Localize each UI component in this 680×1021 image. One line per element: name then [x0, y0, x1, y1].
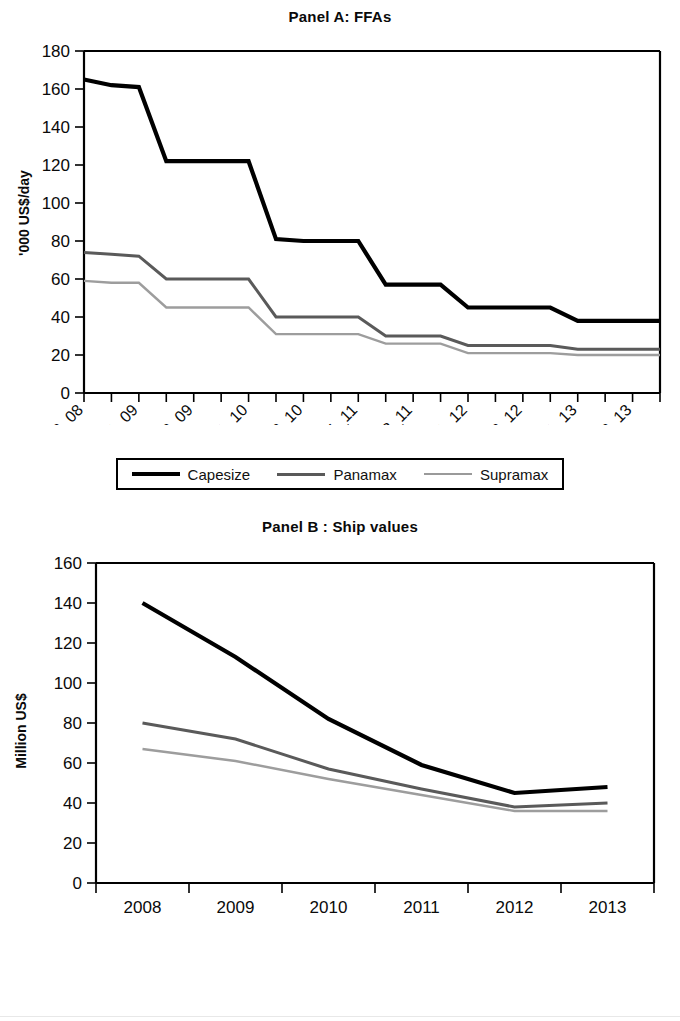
x-tick-label: Q3_13	[589, 401, 636, 425]
legend-item-capesize[interactable]: Capesize	[132, 466, 251, 483]
x-tick-label: 2010	[310, 898, 348, 917]
x-tick-label: 2009	[217, 898, 255, 917]
y-tick-label: 20	[51, 346, 70, 365]
y-tick-label: 100	[42, 194, 70, 213]
legend-item-panamax[interactable]: Panamax	[277, 466, 396, 483]
series-line-panamax	[143, 723, 608, 807]
y-tick-label: 160	[54, 554, 82, 573]
x-tick-label: Q3_08	[40, 401, 87, 425]
panel-b-title: Panel B : Ship values	[0, 508, 680, 535]
panel-a-y-axis-label: '000 US$/day	[16, 143, 32, 283]
legend-item-supramax[interactable]: Supramax	[424, 466, 548, 483]
panel-b: Panel B : Ship values Million US$ 020406…	[0, 508, 680, 1021]
y-tick-label: 160	[42, 80, 70, 99]
x-tick-label: Q3_12	[479, 401, 526, 425]
y-tick-label: 40	[51, 308, 70, 327]
legend-label-supramax: Supramax	[480, 466, 548, 483]
y-tick-label: 0	[73, 874, 82, 893]
panamax-line-icon	[277, 473, 325, 476]
x-tick-label: 2012	[496, 898, 534, 917]
panel-b-chart: 0204060801001201401602008200920102011201…	[0, 535, 680, 935]
x-tick-label: Q1_09	[95, 401, 142, 425]
x-tick-label: Q3_10	[260, 401, 307, 425]
y-tick-label: 140	[42, 118, 70, 137]
legend-label-panamax: Panamax	[333, 466, 396, 483]
panel-b-y-axis-label: Million US$	[13, 666, 29, 796]
y-tick-label: 20	[63, 834, 82, 853]
panel-a-chart: 020406080100120140160180Q3_08Q1_09Q3_09Q…	[0, 25, 680, 425]
panel-a: Panel A: FFAs '000 US$/day 0204060801001…	[0, 0, 680, 505]
supramax-line-icon	[424, 473, 472, 475]
y-tick-label: 180	[42, 42, 70, 61]
panel-a-legend: Capesize Panamax Supramax	[116, 458, 564, 490]
y-tick-label: 40	[63, 794, 82, 813]
panel-a-title: Panel A: FFAs	[0, 0, 680, 25]
x-tick-label: Q1_13	[534, 401, 581, 425]
x-tick-label: Q3_11	[370, 401, 416, 425]
panel-b-plot-area: Million US$ 0204060801001201401602008200…	[0, 535, 680, 925]
series-line-capesize	[84, 80, 660, 321]
capesize-line-icon	[132, 472, 180, 476]
y-tick-label: 0	[61, 384, 70, 403]
series-line-panamax	[84, 252, 660, 349]
x-tick-label: Q1_10	[205, 401, 252, 425]
x-tick-label: 2011	[403, 898, 440, 917]
x-tick-label: 2013	[589, 898, 627, 917]
y-tick-label: 120	[54, 634, 82, 653]
page-bottom-rule	[0, 1016, 680, 1017]
y-tick-label: 100	[54, 674, 82, 693]
x-tick-label: 2008	[124, 898, 162, 917]
series-line-capesize	[143, 603, 608, 793]
legend-label-capesize: Capesize	[188, 466, 251, 483]
y-tick-label: 80	[63, 714, 82, 733]
x-tick-label: Q1_12	[424, 401, 471, 425]
y-tick-label: 60	[51, 270, 70, 289]
y-tick-label: 140	[54, 594, 82, 613]
panel-a-plot-area: '000 US$/day 020406080100120140160180Q3_…	[0, 25, 680, 425]
y-tick-label: 80	[51, 232, 70, 251]
x-tick-label: Q3_09	[150, 401, 197, 425]
y-tick-label: 60	[63, 754, 82, 773]
x-tick-label: Q1_11	[315, 401, 361, 425]
y-tick-label: 120	[42, 156, 70, 175]
